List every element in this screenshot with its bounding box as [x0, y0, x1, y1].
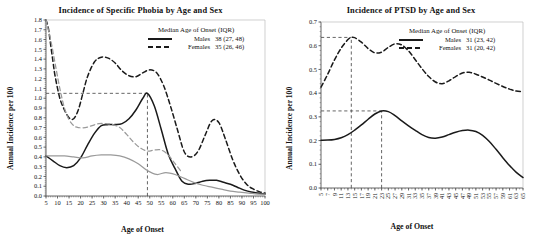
svg-text:0.0: 0.0 [309, 184, 317, 191]
svg-text:57: 57 [493, 193, 499, 199]
y-ticks-right: 0.00.10.20.30.40.50.60.7 [309, 18, 321, 191]
svg-text:63: 63 [513, 193, 519, 199]
svg-text:9: 9 [332, 193, 338, 196]
svg-text:40: 40 [123, 199, 129, 206]
svg-text:13: 13 [345, 193, 351, 199]
legend-right: Median Age of Onset (IQR) Males 31 (23, … [399, 27, 495, 52]
svg-text:0.1: 0.1 [309, 160, 317, 167]
svg-text:61: 61 [507, 193, 513, 199]
svg-text:11: 11 [338, 193, 344, 199]
svg-text:35: 35 [419, 193, 425, 199]
svg-text:0.6: 0.6 [34, 134, 42, 141]
svg-text:1.2: 1.2 [34, 75, 42, 82]
svg-text:60: 60 [170, 199, 176, 206]
dashed-line-icon [399, 44, 423, 52]
legend-title-right: Median Age of Onset (IQR) [399, 27, 495, 34]
reference-lines-left [46, 93, 147, 196]
svg-text:23: 23 [379, 193, 385, 199]
x-ticks-right: 5791113151719212325272931333537394143454… [318, 188, 526, 199]
svg-text:27: 27 [392, 193, 398, 199]
svg-text:0.1: 0.1 [34, 182, 42, 189]
svg-text:45: 45 [135, 199, 141, 206]
svg-text:30: 30 [100, 199, 106, 206]
svg-text:100: 100 [260, 199, 270, 206]
legend-label-males-right: Males [427, 36, 461, 44]
svg-text:1.4: 1.4 [34, 55, 43, 62]
svg-text:47: 47 [460, 193, 466, 199]
legend-left: Median Age of Onset (IQR) Males 38 (27, … [148, 26, 244, 51]
svg-text:21: 21 [372, 193, 378, 199]
svg-text:75: 75 [204, 199, 210, 206]
svg-text:50: 50 [147, 199, 153, 206]
svg-text:1.6: 1.6 [34, 36, 42, 43]
svg-text:37: 37 [426, 193, 432, 199]
svg-text:29: 29 [399, 193, 405, 199]
svg-text:53: 53 [480, 193, 486, 199]
solid-line-icon [148, 35, 172, 43]
svg-text:0.5: 0.5 [309, 66, 317, 73]
svg-text:0.2: 0.2 [309, 137, 317, 144]
svg-text:0.9: 0.9 [34, 104, 42, 111]
legend-label-females-left: Females [176, 43, 210, 51]
svg-text:90: 90 [239, 199, 245, 206]
svg-text:1.8: 1.8 [34, 16, 42, 23]
x-ticks-left: 5101520253035404550556065707580859095100 [44, 196, 269, 206]
legend-label-females-right: Females [427, 44, 461, 52]
svg-text:0.6: 0.6 [309, 42, 317, 49]
svg-text:17: 17 [359, 193, 365, 199]
svg-text:33: 33 [412, 193, 418, 199]
svg-text:0.3: 0.3 [309, 113, 317, 120]
svg-text:39: 39 [433, 193, 439, 199]
svg-text:7: 7 [325, 193, 331, 196]
svg-text:85: 85 [227, 199, 233, 206]
svg-text:1.1: 1.1 [34, 85, 42, 92]
svg-text:70: 70 [193, 199, 199, 206]
legend-row-males-right: Males 31 (23, 42) [399, 36, 495, 44]
svg-text:0.4: 0.4 [34, 153, 43, 160]
svg-text:59: 59 [500, 193, 506, 199]
svg-text:5: 5 [318, 193, 324, 196]
svg-text:1.5: 1.5 [34, 46, 42, 53]
legend-label-males-left: Males [176, 35, 210, 43]
legend-title-left: Median Age of Onset (IQR) [148, 26, 244, 33]
svg-text:55: 55 [158, 199, 164, 206]
svg-text:25: 25 [89, 199, 95, 206]
svg-text:1.3: 1.3 [34, 65, 42, 72]
legend-value-females-right: 31 (20, 42) [466, 44, 495, 52]
svg-text:0.7: 0.7 [309, 18, 318, 25]
svg-text:20: 20 [77, 199, 83, 206]
svg-text:80: 80 [216, 199, 222, 206]
panel-ptsd: Incidence of PTSD by Age and Sex Annual … [281, 0, 541, 238]
incidence-figure: Incidence of Specific Phobia by Age and … [0, 0, 541, 238]
legend-value-females-left: 35 (26, 46) [215, 43, 244, 51]
svg-text:1.0: 1.0 [34, 94, 42, 101]
series-line [46, 93, 265, 194]
svg-text:0.2: 0.2 [34, 173, 42, 180]
svg-text:45: 45 [453, 193, 459, 199]
svg-text:95: 95 [250, 199, 256, 206]
svg-text:43: 43 [446, 193, 452, 199]
svg-text:0.4: 0.4 [309, 89, 318, 96]
reference-lines-right [321, 37, 382, 188]
panel-specific-phobia: Incidence of Specific Phobia by Age and … [0, 0, 281, 238]
svg-text:1.7: 1.7 [34, 26, 43, 33]
legend-row-females-left: Females 35 (26, 46) [148, 43, 244, 51]
svg-text:65: 65 [181, 199, 187, 206]
svg-text:10: 10 [54, 199, 60, 206]
svg-text:0.3: 0.3 [34, 163, 42, 170]
svg-text:0.5: 0.5 [34, 143, 42, 150]
svg-text:31: 31 [406, 193, 412, 199]
legend-row-males-left: Males 38 (27, 48) [148, 35, 244, 43]
legend-row-females-right: Females 31 (20, 42) [399, 44, 495, 52]
svg-text:55: 55 [486, 193, 492, 199]
solid-line-icon [399, 36, 423, 44]
legend-value-males-right: 31 (23, 42) [466, 36, 495, 44]
svg-text:25: 25 [385, 193, 391, 199]
svg-text:0.7: 0.7 [34, 124, 43, 131]
svg-text:51: 51 [473, 193, 479, 199]
svg-text:5: 5 [44, 199, 47, 206]
svg-text:41: 41 [439, 193, 445, 199]
svg-text:0.8: 0.8 [34, 114, 42, 121]
legend-value-males-left: 38 (27, 48) [215, 35, 244, 43]
svg-text:15: 15 [66, 199, 72, 206]
